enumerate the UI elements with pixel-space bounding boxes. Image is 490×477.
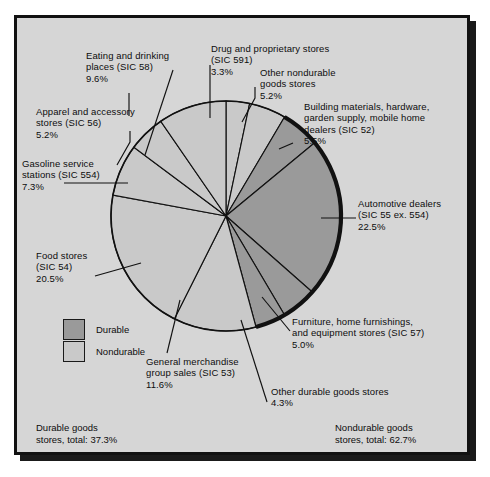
callout-eating-and-drinking: Eating and drinking places (SIC 58) 9.6% xyxy=(86,50,211,84)
legend-swatch-nondurable xyxy=(63,341,85,362)
total-durable-goods: Durable goods stores, total: 37.3% xyxy=(36,422,186,445)
callout-apparel-and-accessory: Apparel and accessory stores (SIC 56) 5.… xyxy=(36,106,176,140)
callout-automotive-dealers: Automotive dealers (SIC 55 ex. 554) 22.5… xyxy=(358,198,467,232)
callout-gasoline-service: Gasoline service stations (SIC 554) 7.3% xyxy=(22,158,142,192)
total-nondurable-goods: Nondurable goods stores, total: 62.7% xyxy=(335,422,467,445)
figure-inner-panel: Eating and drinking places (SIC 58) 9.6%… xyxy=(17,18,467,452)
callout-other-nondurable: Other nondurable goods stores 5.2% xyxy=(260,67,355,101)
legend-item-nondurable: Nondurable xyxy=(63,340,145,362)
legend-swatch-durable xyxy=(63,319,85,340)
legend-item-durable: Durable xyxy=(63,318,145,340)
legend: Durable Nondurable xyxy=(63,318,145,362)
callout-other-durable-goods: Other durable goods stores 4.3% xyxy=(271,386,431,409)
callout-building-materials: Building materials, hardware, garden sup… xyxy=(304,101,467,147)
callout-furniture-home-furnishings: Furniture, home furnishings, and equipme… xyxy=(292,316,467,350)
legend-label-durable: Durable xyxy=(96,324,129,335)
callout-general-merchandise: General merchandise group sales (SIC 53)… xyxy=(146,356,271,390)
callout-food-stores: Food stores (SIC 54) 20.5% xyxy=(36,250,131,284)
legend-label-nondurable: Nondurable xyxy=(96,346,145,357)
figure-frame: Eating and drinking places (SIC 58) 9.6%… xyxy=(14,15,470,455)
